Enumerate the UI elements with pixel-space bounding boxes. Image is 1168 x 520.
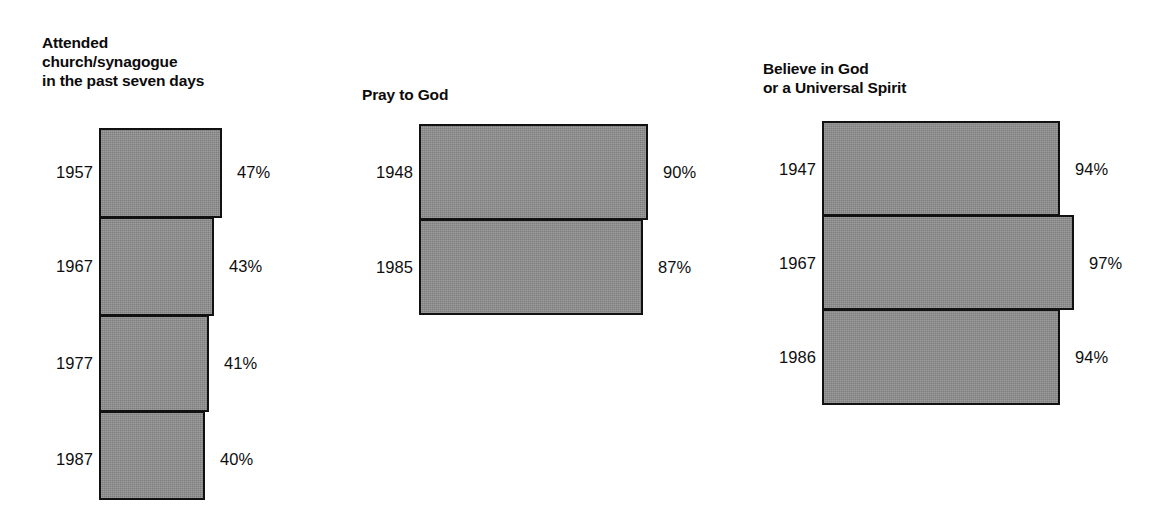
panel-title-believe: Believe in God or a Universal Spirit — [763, 59, 1063, 97]
year-label-believe-1986: 1986 — [736, 348, 816, 366]
year-label-attendance-1957: 1957 — [13, 163, 93, 181]
value-label-pray-1985: 87% — [658, 258, 728, 276]
bar-attendance-1977 — [99, 315, 209, 412]
bar-believe-1947 — [822, 121, 1060, 216]
year-label-attendance-1977: 1977 — [13, 354, 93, 372]
bar-pray-1985 — [419, 219, 643, 315]
bar-attendance-1967 — [99, 217, 214, 316]
value-label-pray-1948: 90% — [663, 163, 733, 181]
value-label-attendance-1987: 40% — [220, 450, 290, 468]
bar-chart-figure: Attended church/synagogue in the past se… — [0, 0, 1168, 520]
value-label-attendance-1977: 41% — [224, 354, 294, 372]
bar-pray-1948 — [419, 124, 648, 220]
bar-believe-1986 — [822, 309, 1060, 405]
bar-believe-1967 — [822, 215, 1074, 310]
year-label-pray-1985: 1985 — [333, 258, 413, 276]
value-label-believe-1947: 94% — [1075, 160, 1145, 178]
year-label-attendance-1987: 1987 — [13, 450, 93, 468]
year-label-attendance-1967: 1967 — [13, 257, 93, 275]
value-label-believe-1986: 94% — [1075, 348, 1145, 366]
value-label-believe-1967: 97% — [1089, 254, 1159, 272]
value-label-attendance-1957: 47% — [237, 163, 307, 181]
value-label-attendance-1967: 43% — [229, 257, 299, 275]
panel-title-attendance: Attended church/synagogue in the past se… — [42, 33, 292, 90]
year-label-pray-1948: 1948 — [333, 163, 413, 181]
panel-title-pray: Pray to God — [362, 85, 612, 104]
bar-attendance-1987 — [99, 411, 205, 500]
bar-attendance-1957 — [99, 128, 222, 218]
year-label-believe-1967: 1967 — [736, 254, 816, 272]
year-label-believe-1947: 1947 — [736, 160, 816, 178]
